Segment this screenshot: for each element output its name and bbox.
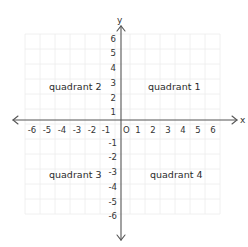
quadrant-4-label: quadrant 4 <box>150 169 202 180</box>
x-tick: 2 <box>150 125 155 135</box>
grid <box>25 34 220 214</box>
x-tick: -6 <box>28 125 36 135</box>
x-tick: 4 <box>180 125 185 135</box>
x-axis-label: x <box>240 115 246 125</box>
y-tick: 5 <box>111 48 116 58</box>
coordinate-plane: x y O -6 -5 -4 -3 -2 -1 1 2 3 4 5 6 6 5 … <box>0 0 248 247</box>
y-tick: -6 <box>109 211 117 221</box>
x-tick: 1 <box>135 125 140 135</box>
y-tick: 4 <box>111 63 116 73</box>
y-tick: -1 <box>109 138 117 148</box>
y-axis-label: y <box>117 15 123 25</box>
y-tick: 3 <box>111 78 116 88</box>
x-tick: -5 <box>43 125 51 135</box>
y-tick: 6 <box>111 34 116 44</box>
x-tick: -1 <box>102 125 110 135</box>
x-tick: 3 <box>165 125 170 135</box>
y-tick: -5 <box>109 197 117 207</box>
x-tick: -3 <box>73 125 81 135</box>
x-tick: 6 <box>210 125 215 135</box>
origin-label: O <box>123 125 130 135</box>
x-tick: 5 <box>195 125 200 135</box>
y-tick: 2 <box>111 93 116 103</box>
quadrant-2-label: quadrant 2 <box>49 81 101 92</box>
y-tick: -4 <box>109 182 117 192</box>
x-axis <box>13 116 237 124</box>
quadrant-1-label: quadrant 1 <box>148 81 200 92</box>
y-tick: -2 <box>109 152 117 162</box>
quadrant-3-label: quadrant 3 <box>49 169 101 180</box>
y-tick: 1 <box>111 107 116 117</box>
x-tick-labels: -6 -5 -4 -3 -2 -1 1 2 3 4 5 6 <box>28 125 216 135</box>
x-tick: -4 <box>58 125 66 135</box>
x-tick: -2 <box>88 125 96 135</box>
y-tick: -3 <box>109 167 117 177</box>
